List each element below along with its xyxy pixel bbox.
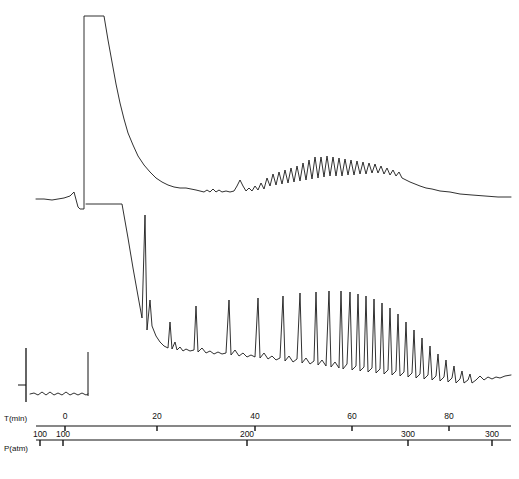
time-axis-label: T(min) [4,414,27,423]
upper-trace [36,16,511,209]
trace-group [30,16,511,395]
pressure-tick-label: 100 [56,429,70,439]
time-tick-label: 20 [152,411,161,421]
pressure-tick-label: 100 [33,429,47,439]
time-tick-label: 0 [63,411,68,421]
time-tick-label: 60 [347,411,356,421]
pressure-tick-label: 300 [485,429,499,439]
lower-trace [86,204,511,383]
pressure-axis-label: P(atm) [4,444,28,453]
pressure-tick-label: 200 [240,429,254,439]
recorder-trace-plot [0,0,519,479]
chart-figure: T(min) P(atm) 020406080 100100200300300 [0,0,519,479]
inset-baseline-trace [30,392,88,395]
time-tick-label: 80 [444,411,453,421]
pressure-tick-label: 300 [401,429,415,439]
time-tick-label: 40 [250,411,259,421]
